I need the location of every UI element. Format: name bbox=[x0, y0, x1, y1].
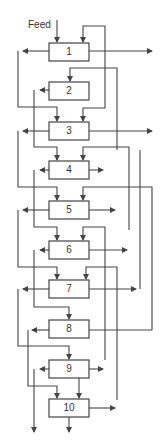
svg-text:5: 5 bbox=[66, 204, 72, 215]
stage-2: 2 bbox=[49, 82, 89, 100]
stage-8: 8 bbox=[49, 320, 89, 338]
feed-label: Feed bbox=[28, 19, 51, 30]
svg-text:8: 8 bbox=[66, 323, 72, 334]
stage-9: 9 bbox=[49, 360, 89, 378]
svg-text:3: 3 bbox=[66, 125, 72, 136]
svg-text:1: 1 bbox=[66, 46, 72, 57]
stage-7: 7 bbox=[49, 280, 89, 298]
stage-1: 1 bbox=[49, 43, 89, 61]
recycle-to-4 bbox=[83, 147, 129, 230]
svg-text:7: 7 bbox=[66, 283, 72, 294]
flowsheet-diagram: Feed 1 2 3 4 5 6 7 8 bbox=[0, 0, 163, 444]
svg-text:9: 9 bbox=[66, 363, 72, 374]
svg-text:4: 4 bbox=[66, 164, 72, 175]
stage-6: 6 bbox=[49, 241, 89, 259]
stage-4: 4 bbox=[49, 161, 89, 179]
svg-text:10: 10 bbox=[63, 402, 75, 413]
svg-text:2: 2 bbox=[66, 85, 72, 96]
svg-text:6: 6 bbox=[66, 244, 72, 255]
stage-3: 3 bbox=[49, 122, 89, 140]
recycle-to-7 bbox=[86, 267, 117, 400]
stage-10: 10 bbox=[49, 399, 89, 417]
stage-5: 5 bbox=[49, 201, 89, 219]
